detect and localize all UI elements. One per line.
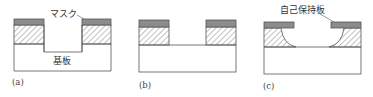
etching-process-diagram: マスク 基板 (a) (b) 自己保持板 (c) bbox=[0, 0, 373, 97]
mask-label: マスク bbox=[50, 9, 77, 19]
film-left-c bbox=[264, 28, 296, 47]
caption-a: (a) bbox=[12, 77, 24, 87]
self-holding-plate-leader-line bbox=[320, 14, 334, 22]
substrate-c bbox=[264, 47, 361, 74]
film-left-a bbox=[14, 25, 44, 44]
panel-c: 自己保持板 (c) bbox=[263, 4, 361, 91]
mask-right-c bbox=[331, 22, 361, 28]
film-right-a bbox=[82, 25, 111, 44]
film-left-b bbox=[139, 27, 169, 45]
panel-a: マスク 基板 (a) bbox=[12, 9, 111, 87]
mask-right-b bbox=[206, 20, 236, 27]
mask-leader-line bbox=[77, 15, 84, 19]
caption-b: (b) bbox=[139, 80, 151, 90]
self-holding-plate-label: 自己保持板 bbox=[280, 4, 325, 15]
mask-right-a bbox=[82, 19, 111, 25]
film-right-b bbox=[206, 27, 236, 45]
panel-b: (b) bbox=[139, 20, 236, 90]
film-right-c bbox=[329, 28, 361, 47]
mask-left-b bbox=[139, 20, 169, 27]
substrate-label: 基板 bbox=[53, 55, 71, 66]
mask-left-c bbox=[264, 22, 294, 28]
mask-left-a bbox=[14, 19, 44, 25]
caption-c: (c) bbox=[263, 81, 274, 91]
substrate-b bbox=[139, 45, 236, 72]
